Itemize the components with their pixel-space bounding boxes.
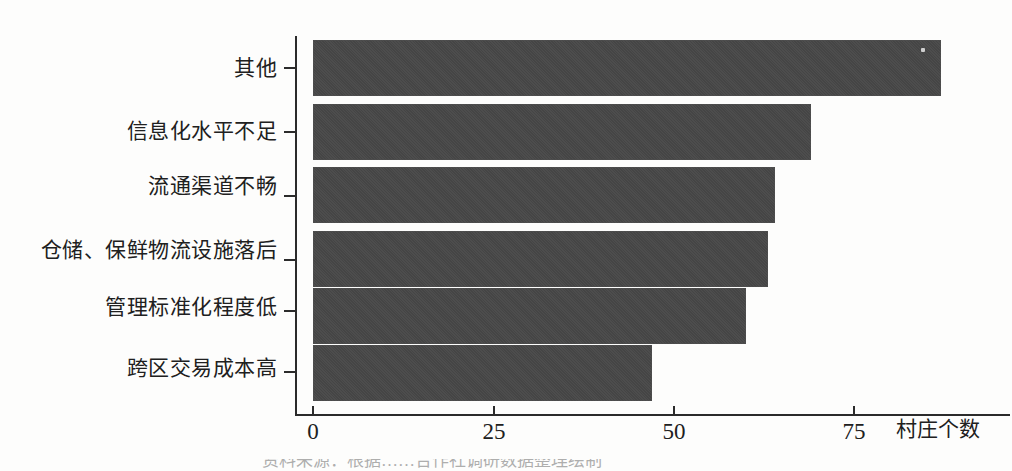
figure-caption: 资料来源：根据……合作社调研数据整理绘制 (262, 459, 602, 469)
y-axis-tick (284, 67, 296, 69)
y-axis-tick (284, 371, 296, 373)
x-axis-tick (853, 406, 855, 415)
y-axis-category-label: 管理标准化程度低 (0, 297, 277, 318)
x-axis-line (295, 414, 1010, 416)
x-axis-tick-label: 75 (824, 420, 884, 443)
bar (313, 288, 746, 344)
y-axis-tick (284, 131, 296, 133)
bar (313, 104, 811, 160)
x-axis-tick (312, 406, 314, 415)
x-axis-tick-label: 25 (464, 420, 524, 443)
y-axis-line (295, 36, 297, 415)
x-axis-tick-label: 0 (283, 420, 343, 443)
y-axis-tick (284, 259, 296, 261)
bar (313, 231, 768, 287)
y-axis-category-label: 流通渠道不畅 (0, 176, 277, 197)
bar (313, 167, 775, 223)
scan-artifact-speck (921, 48, 925, 52)
y-axis-tick (284, 310, 296, 312)
bar (313, 40, 941, 96)
x-axis-tick (673, 406, 675, 415)
y-axis-tick (284, 195, 296, 197)
x-axis-title: 村庄个数 (896, 419, 980, 440)
chart-figure: 其他 信息化水平不足 流通渠道不畅 仓储、保鲜物流设施落后 管理标准化程度低 跨… (0, 0, 1012, 471)
x-axis-tick (493, 406, 495, 415)
y-axis-category-label: 跨区交易成本高 (0, 358, 277, 379)
y-axis-category-label: 其他 (0, 58, 277, 79)
figure-caption-strip: 资料来源：根据……合作社调研数据整理绘制 (0, 459, 1012, 471)
y-axis-category-label: 仓储、保鲜物流设施落后 (0, 240, 277, 261)
x-axis-tick-label: 50 (644, 420, 704, 443)
plot-area: 其他 信息化水平不足 流通渠道不畅 仓储、保鲜物流设施落后 管理标准化程度低 跨… (0, 0, 1012, 471)
bar (313, 345, 652, 401)
y-axis-category-label: 信息化水平不足 (0, 121, 277, 142)
